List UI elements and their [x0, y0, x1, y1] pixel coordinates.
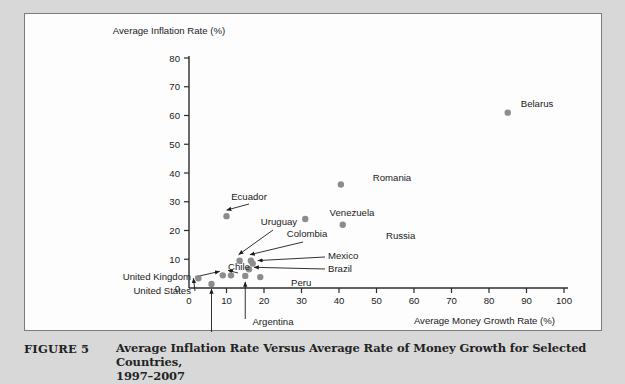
point-label: Mexico [328, 250, 358, 261]
data-point [223, 213, 229, 219]
leader-arrow [193, 278, 195, 291]
x-tick-label: 0 [186, 295, 191, 306]
x-tick-label: 40 [334, 295, 345, 306]
x-tick-label: 100 [556, 295, 572, 306]
data-point [505, 109, 511, 115]
data-point [257, 274, 263, 280]
x-tick-label: 50 [371, 295, 382, 306]
leader-arrow [227, 204, 250, 210]
x-axis-title: Average Money Growth Rate (%) [414, 315, 555, 326]
leader-arrow [250, 242, 303, 255]
y-tick-label: 80 [169, 53, 180, 64]
leader-arrow [254, 267, 325, 269]
data-point [302, 216, 308, 222]
x-tick-label: 30 [296, 295, 307, 306]
x-tick-label: 10 [221, 295, 232, 306]
x-tick-label: 80 [484, 295, 495, 306]
point-label: United States [133, 285, 191, 296]
figure-caption: FIGURE 5 Average Inflation Rate Versus A… [24, 341, 602, 383]
point-label: Uruguay [261, 216, 297, 227]
point-label: Brazil [328, 263, 352, 274]
data-point [242, 273, 248, 279]
leader-arrow [239, 230, 273, 255]
y-tick-label: 60 [169, 110, 180, 121]
x-tick-label: 90 [521, 295, 532, 306]
point-label: Ecuador [231, 191, 268, 202]
chart-panel: 010203040506070809010001020304050607080A… [24, 13, 602, 331]
figure-caption-text: Average Inflation Rate Versus Average Ra… [116, 341, 602, 383]
caption-line-1: Average Inflation Rate Versus Average Ra… [116, 341, 602, 369]
figure-number: FIGURE 5 [24, 341, 116, 356]
y-axis-title: Average Inflation Rate (%) [113, 25, 225, 36]
point-label: United Kingdom [123, 271, 191, 282]
y-tick-label: 40 [169, 168, 180, 179]
y-tick-label: 20 [169, 225, 180, 236]
x-tick-label: 20 [259, 295, 270, 306]
data-point [220, 272, 226, 278]
y-tick-label: 30 [169, 196, 180, 207]
point-label: Venezuela [330, 207, 375, 218]
x-tick-label: 70 [446, 295, 457, 306]
y-tick-label: 10 [169, 254, 180, 265]
figure-container: 010203040506070809010001020304050607080A… [0, 0, 625, 384]
x-tick-label: 60 [409, 295, 420, 306]
point-label: Colombia [287, 228, 328, 239]
point-label: Peru [291, 277, 311, 288]
leader-arrow [258, 257, 325, 261]
point-label: Switzerland [222, 331, 272, 332]
data-point [340, 222, 346, 228]
data-point [195, 275, 201, 281]
data-point [338, 181, 344, 187]
data-point [250, 260, 256, 266]
y-tick-label: 50 [169, 139, 180, 150]
chart-svg: 010203040506070809010001020304050607080A… [25, 14, 603, 332]
point-label: Romania [373, 172, 412, 183]
point-label: Russia [386, 230, 416, 241]
y-tick-label: 70 [169, 81, 180, 92]
point-label: Argentina [252, 316, 294, 327]
data-point [228, 272, 234, 278]
point-label: Belarus [521, 98, 554, 109]
data-point [208, 281, 214, 287]
caption-line-2: 1997–2007 [116, 369, 602, 383]
scatter-plot: 010203040506070809010001020304050607080A… [25, 14, 601, 330]
point-label: Chile [228, 261, 250, 272]
